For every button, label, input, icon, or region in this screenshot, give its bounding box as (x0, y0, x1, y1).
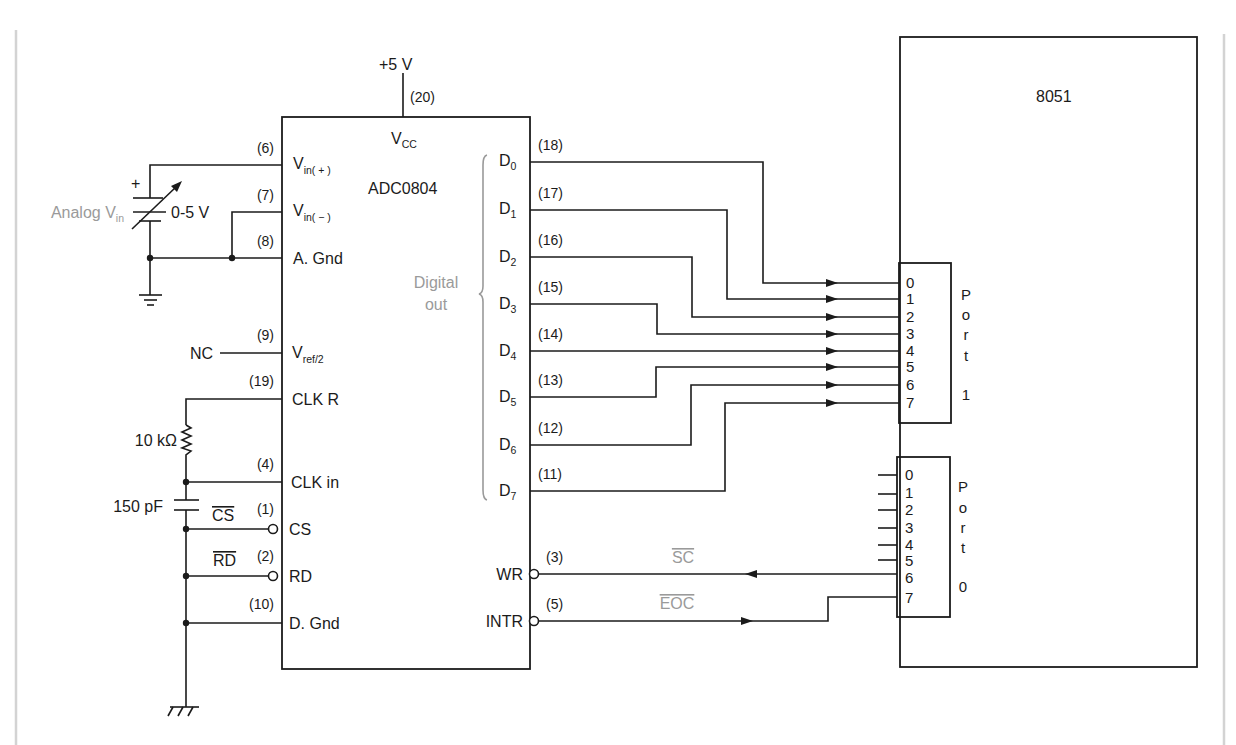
left-pin-group: (6) Vin( + ) (7) Vin( − ) (8) A. Gnd + A… (51, 140, 343, 716)
pin-number-d4: (14) (538, 326, 563, 342)
pin-label-intr: INTR (486, 613, 523, 630)
port1-pin-2: 2 (906, 308, 914, 325)
cs-bar-label: CS (212, 507, 234, 524)
intr-eoc-wire (539, 597, 897, 621)
port1-letter-r: r (964, 326, 969, 343)
pin-label-wr: WR (496, 566, 523, 583)
d6-wire (530, 385, 899, 445)
capacitor-value: 150 pF (113, 498, 163, 515)
pin-number-d3: (15) (538, 279, 563, 295)
arrow-right-icon (826, 381, 838, 389)
port1-block: 0 1 2 3 4 5 6 7 P o r t 1 (899, 263, 971, 423)
analog-vin-label: Analog Vin (51, 204, 124, 224)
digital-out-label-line1: Digital (414, 274, 458, 291)
port1-letter-o: o (962, 306, 970, 323)
pin-label-rd: RD (289, 568, 312, 585)
vin-plus-sub: in( + ) (304, 164, 331, 176)
vcc-base: V (391, 130, 402, 147)
vcc-pin-label: VCC (391, 130, 417, 150)
arrow-right-icon (826, 347, 838, 355)
pin-label-vin-minus: Vin( − ) (293, 202, 331, 223)
d5-wire (530, 367, 899, 397)
vin-plus-base: V (293, 155, 304, 172)
port0-number: 0 (959, 578, 967, 595)
port0-pin-2: 2 (905, 501, 913, 518)
pin-number-vin-plus: (6) (257, 140, 274, 156)
pin-number-intr: (5) (546, 596, 563, 612)
port0-pin-0: 0 (905, 466, 913, 483)
clkr-wire (186, 399, 282, 425)
vin-minus-sub: in( − ) (304, 211, 331, 223)
pin-number-d2: (16) (538, 232, 563, 248)
pin-number-d5: (13) (538, 372, 563, 388)
d4-base: D (499, 342, 511, 359)
vref-base: V (292, 344, 303, 361)
junction-dot (183, 620, 189, 626)
port0-pin-7: 7 (905, 589, 913, 606)
arrow-right-icon (826, 313, 838, 321)
port1-number: 1 (962, 386, 970, 403)
d5-sub: 5 (511, 396, 517, 408)
arrow-right-icon (741, 617, 753, 625)
d7-wire (530, 403, 899, 491)
junction-dot (183, 526, 189, 532)
mcu-name: 8051 (1036, 88, 1072, 105)
arrow-right-icon (826, 295, 838, 303)
arrow-right-icon (826, 279, 838, 287)
d3-base: D (499, 295, 511, 312)
pin-label-d6: D6 (499, 436, 517, 456)
pin-number-d7: (11) (538, 466, 562, 482)
pin-label-d5: D5 (499, 388, 517, 408)
pin-number-vref: (9) (257, 327, 274, 343)
d7-base: D (499, 482, 511, 499)
sc-signal-label: SC (672, 549, 694, 566)
pin-number-d1: (17) (538, 185, 563, 201)
input-range-label: 0-5 V (171, 204, 210, 221)
vin-minus-base: V (293, 202, 304, 219)
adc-8051-interface-schematic: ADC0804 +5 V (20) VCC (6) Vin( + ) (7) V… (0, 0, 1236, 745)
junction-dot (147, 255, 153, 261)
pin-label-clkr: CLK R (292, 391, 339, 408)
pin-number-clkr: (19) (249, 373, 274, 389)
vref-sub: ref/2 (303, 353, 324, 365)
pin-number-vin-minus: (7) (257, 187, 274, 203)
d6-sub: 6 (511, 444, 517, 456)
arrow-right-icon (826, 399, 838, 407)
vcc-sub: CC (402, 138, 418, 150)
port0-letter-p: P (958, 478, 968, 495)
pin-number-rd: (2) (257, 548, 274, 564)
pin-number-wr: (3) (546, 549, 563, 565)
pin-number-dgnd: (10) (249, 596, 274, 612)
chassis-ground-icon (168, 707, 199, 716)
pin-number-d6: (12) (538, 420, 563, 436)
d6-base: D (499, 436, 511, 453)
inversion-bubble-icon (269, 572, 278, 581)
d1-sub: 1 (511, 208, 517, 220)
junction-dot (183, 573, 189, 579)
control-signal-group: WR (3) SC INTR (5) EOC (486, 549, 897, 630)
pin-label-cs: CS (289, 521, 311, 538)
port1-letter-p: P (961, 286, 971, 303)
pin-label-vref: Vref/2 (292, 344, 324, 365)
inversion-bubble-icon (269, 525, 278, 534)
pin-label-agnd: A. Gnd (293, 250, 343, 267)
d2-sub: 2 (511, 256, 517, 268)
port1-pin-4: 4 (906, 342, 914, 359)
d3-sub: 3 (511, 303, 517, 315)
polarity-plus: + (131, 175, 140, 192)
pin-label-d2: D2 (499, 248, 517, 268)
port0-pin-3: 3 (905, 519, 913, 536)
port0-pin-5: 5 (905, 552, 913, 569)
pin-label-clkin: CLK in (291, 474, 339, 491)
pin-label-d1: D1 (499, 200, 517, 220)
port0-pin-4: 4 (905, 536, 913, 553)
vcc-pin-number: (20) (410, 89, 435, 105)
arrow-right-icon (826, 363, 838, 371)
microcontroller-8051: 8051 0 1 2 3 4 5 6 7 P o r t 1 0 (878, 37, 1197, 667)
d0-wire (530, 162, 899, 283)
pin-number-d0: (18) (538, 137, 563, 153)
d0-base: D (499, 152, 511, 169)
analog-vin-sub: in (116, 212, 124, 224)
digital-out-label-line2: out (425, 296, 448, 313)
supply-label: +5 V (379, 56, 413, 73)
